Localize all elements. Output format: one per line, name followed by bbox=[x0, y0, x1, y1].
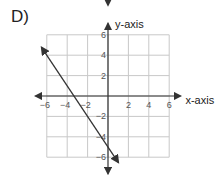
x-tick-label: −6 bbox=[40, 100, 50, 110]
y-tick-label: 6 bbox=[101, 30, 106, 40]
y-tick-label: −6 bbox=[96, 152, 106, 162]
x-tick-label: 4 bbox=[146, 100, 151, 110]
series-line bbox=[42, 48, 119, 163]
x-tick-label: 2 bbox=[126, 100, 131, 110]
x-axis-label: x-axis bbox=[185, 94, 214, 106]
y-axis-label: y-axis bbox=[115, 18, 144, 30]
y-tick-label: 2 bbox=[101, 71, 106, 81]
x-tick-label: 6 bbox=[167, 100, 172, 110]
y-tick-label: 4 bbox=[101, 50, 106, 60]
chart: −6−4−2246642−2−4−6x-axisy-axis bbox=[0, 0, 215, 183]
y-tick-label: −2 bbox=[96, 111, 106, 121]
x-tick-label: −4 bbox=[60, 100, 70, 110]
